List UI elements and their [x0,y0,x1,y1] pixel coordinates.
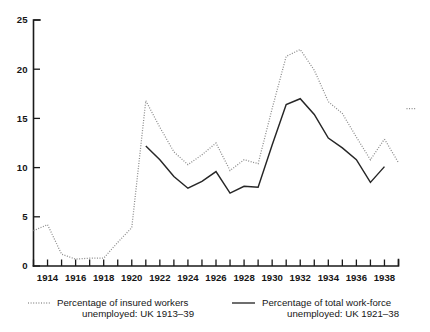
series-insured-workers-line [34,50,385,260]
series-group [34,50,416,260]
legend: Percentage of insured workers unemployed… [28,297,399,319]
unemployment-line-chart: 0510152025 19141916191819201922192419261… [0,0,430,332]
y-axis-tick-label: 25 [17,14,28,25]
y-axis-tick-label: 15 [17,113,28,124]
x-axis-ticks [34,260,399,267]
x-axis-tick-label: 1928 [233,272,255,283]
x-axis-group: 1914191619181920192219241926192819301932… [34,260,399,284]
y-axis-ticks [34,20,41,266]
x-axis-tick-label: 1924 [177,272,199,283]
y-axis-tick-label: 10 [17,162,28,173]
x-axis-tick-label: 1918 [93,272,115,283]
chart-canvas: 0510152025 19141916191819201922192419261… [0,0,430,332]
x-axis-tick-label: 1922 [149,272,170,283]
y-axis-tick-label: 0 [22,260,27,271]
x-axis-tick-label: 1936 [346,272,367,283]
series-insured-workers-tail [384,139,398,163]
legend-entry-1-line-2: unemployed: UK 1913–39 [82,308,194,319]
x-axis-tick-label: 1926 [205,272,226,283]
y-axis-tick-label: 20 [17,64,28,75]
legend-entry-2-line-1: Percentage of total work-force [262,297,391,308]
x-axis-tick-label: 1938 [374,272,396,283]
x-axis-tick-label: 1930 [261,272,282,283]
legend-entry-1-line-1: Percentage of insured workers [57,297,189,308]
x-axis-tick-labels: 1914191619181920192219241926192819301932… [37,272,396,283]
y-axis-tick-label: 5 [22,211,28,222]
series-total-workforce-line [146,99,385,193]
y-axis-line [34,20,41,266]
x-axis-tick-label: 1932 [290,272,311,283]
legend-entry-2-line-2: unemployed: UK 1921–38 [287,308,399,319]
x-axis-tick-label: 1920 [121,272,142,283]
y-axis-tick-labels: 0510152025 [17,14,28,271]
x-axis-tick-label: 1916 [65,272,86,283]
y-axis-group: 0510152025 [17,14,40,271]
x-axis-tick-label: 1914 [37,272,59,283]
x-axis-tick-label: 1934 [318,272,340,283]
